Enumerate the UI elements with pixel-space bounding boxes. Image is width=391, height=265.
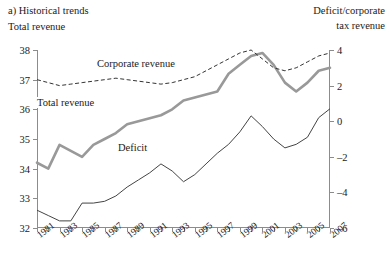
left-tick-label: 35	[20, 134, 31, 145]
deficit-line	[37, 109, 330, 221]
right-tick-label: 4	[337, 45, 342, 56]
chart-figure: a) Historical trends Total revenue Defic…	[0, 0, 391, 265]
deficit-label: Deficit	[117, 142, 148, 153]
right-tick-label: 0	[337, 116, 342, 127]
left-tick-label: 38	[20, 45, 31, 56]
total-revenue-label: Total revenue	[36, 97, 95, 108]
left-axis-title: Total revenue	[8, 22, 65, 33]
total-revenue-line	[37, 53, 330, 169]
right-tick	[330, 157, 334, 158]
right-axis-title-line1: Deficit/corporate	[313, 6, 385, 17]
right-tick	[330, 192, 334, 193]
right-tick	[330, 121, 334, 122]
panel-label: a) Historical trends	[8, 6, 88, 17]
left-tick-label: 37	[20, 74, 31, 85]
plot-area: 38373635343332 420–2–4–6 198119831985198…	[37, 50, 330, 228]
corporate-revenue-label: Corporate revenue	[96, 58, 176, 69]
left-tick-label: 32	[20, 223, 31, 234]
x-tick-label: 2007	[328, 220, 349, 240]
right-tick-label: 2	[337, 80, 342, 91]
right-tick	[330, 86, 334, 87]
left-tick-label: 33	[20, 193, 31, 204]
right-tick	[330, 50, 334, 51]
right-tick-label: –4	[337, 187, 348, 198]
corporate-revenue-line	[37, 50, 330, 86]
right-tick-label: –2	[337, 151, 348, 162]
right-axis-title-line2: tax revenue	[336, 21, 385, 32]
left-tick-label: 34	[20, 163, 31, 174]
left-tick-label: 36	[20, 104, 31, 115]
series-lines	[37, 50, 330, 228]
